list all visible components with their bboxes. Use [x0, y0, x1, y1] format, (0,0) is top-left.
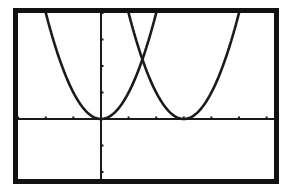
- screen-background: [0, 0, 285, 191]
- graphing-calculator-screen: [0, 0, 285, 191]
